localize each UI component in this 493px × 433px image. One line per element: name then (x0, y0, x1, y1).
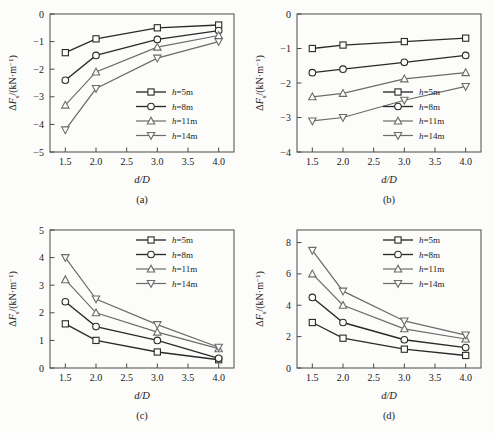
circle-marker (309, 294, 316, 301)
square-marker (309, 319, 315, 325)
x-tick-label: 2.0 (90, 156, 103, 167)
square-marker (148, 89, 154, 95)
panel-label: (b) (383, 194, 396, 206)
chart-svg-a: 1.52.02.53.03.54.0−5−4−3−2−10d/D(a)ΔFs/(… (0, 0, 246, 216)
y-tick-label: 6 (286, 268, 291, 279)
circle-marker (395, 251, 402, 258)
x-tick-label: 1.5 (59, 156, 72, 167)
y-tick-label: 4 (39, 252, 44, 263)
legend-label: h=11m (419, 264, 444, 274)
legend-label: h=8m (419, 102, 440, 112)
y-axis-label: ΔFs/(kN·m−1) (254, 55, 268, 111)
y-tick-label: 0 (39, 9, 44, 20)
x-tick-label: 3.0 (151, 372, 164, 383)
x-tick-label: 4.0 (212, 156, 225, 167)
legend: h=5mh=8mh=11mh=14m (383, 235, 445, 289)
square-marker (340, 335, 346, 341)
y-tick-label: −3 (33, 91, 44, 102)
series-line (65, 302, 218, 359)
triangle-down-marker (92, 296, 99, 303)
x-axis-label: d/D (381, 390, 397, 401)
x-tick-label: 4.0 (459, 372, 472, 383)
triangle-down-marker (462, 332, 469, 339)
y-tick-label: −4 (280, 147, 291, 158)
x-tick-label: 2.0 (90, 372, 103, 383)
legend: h=5mh=8mh=11mh=14m (383, 87, 445, 140)
triangle-down-marker (62, 127, 69, 134)
plot-frame (297, 230, 481, 368)
series-line (65, 31, 218, 81)
x-tick-label: 4.0 (212, 372, 225, 383)
x-tick-label: 1.5 (306, 156, 319, 167)
chart-panel-d: 1.52.02.53.03.54.002468d/D(d)ΔFs/(kN·m−1… (247, 216, 493, 432)
x-tick-label: 3.5 (182, 156, 195, 167)
triangle-down-marker (339, 288, 346, 295)
circle-marker (309, 69, 316, 76)
y-tick-label: −2 (280, 78, 291, 89)
x-tick-label: 2.5 (367, 372, 380, 383)
circle-marker (462, 344, 469, 351)
legend-label: h=8m (172, 102, 193, 112)
y-tick-label: 4 (286, 300, 291, 311)
circle-marker (93, 52, 100, 59)
panel-label: (c) (136, 410, 148, 422)
y-axis-label: ΔFs/(kN·m−1) (7, 271, 21, 327)
circle-marker (401, 59, 408, 66)
y-tick-label: 3 (39, 280, 44, 291)
circle-marker (148, 103, 155, 110)
y-axis-label: ΔFs/(kN·m−1) (254, 271, 268, 327)
circle-marker (462, 52, 469, 59)
circle-marker (62, 77, 69, 84)
square-marker (62, 50, 68, 56)
legend-label: h=14m (419, 279, 445, 289)
chart-panel-b: 1.52.02.53.03.54.0−4−3−2−10d/D(b)ΔFs/(kN… (247, 0, 493, 216)
square-marker (395, 89, 401, 95)
x-tick-label: 2.5 (120, 372, 133, 383)
series-line (312, 55, 465, 72)
chart-svg-d: 1.52.02.53.03.54.002468d/D(d)ΔFs/(kN·m−1… (247, 216, 493, 432)
chart-svg-c: 1.52.02.53.03.54.0012345d/D(c)ΔFs/(kN·m−… (0, 216, 246, 432)
legend-label: h=11m (172, 116, 197, 126)
y-tick-label: 2 (286, 331, 291, 342)
x-tick-label: 3.0 (398, 156, 411, 167)
y-tick-label: −3 (280, 112, 291, 123)
square-marker (401, 39, 407, 45)
circle-marker (154, 36, 161, 43)
y-axis-label: ΔFs/(kN·m−1) (7, 55, 21, 111)
square-marker (401, 346, 407, 352)
x-axis-label: d/D (134, 390, 150, 401)
circle-marker (215, 355, 222, 362)
triangle-up-marker (62, 276, 69, 283)
x-tick-label: 3.0 (151, 156, 164, 167)
series-line (65, 324, 218, 360)
plot-frame (50, 14, 234, 152)
x-tick-label: 3.5 (429, 156, 442, 167)
circle-marker (340, 319, 347, 326)
legend-label: h=14m (419, 131, 445, 141)
circle-marker (62, 298, 69, 305)
y-tick-label: 8 (286, 237, 291, 248)
x-axis-label: d/D (381, 174, 397, 185)
legend-label: h=11m (419, 116, 444, 126)
x-tick-label: 3.5 (182, 372, 195, 383)
x-tick-label: 1.5 (59, 372, 72, 383)
y-tick-label: 0 (286, 363, 291, 374)
y-tick-label: 0 (286, 9, 291, 20)
y-tick-label: −4 (33, 119, 44, 130)
legend: h=5mh=8mh=11mh=14m (136, 87, 198, 140)
panel-label: (a) (136, 194, 148, 206)
square-marker (340, 42, 346, 48)
x-tick-label: 2.0 (337, 156, 350, 167)
series-line (65, 36, 218, 106)
square-marker (148, 237, 154, 243)
plot-frame (50, 230, 234, 368)
square-marker (154, 25, 160, 31)
x-tick-label: 2.5 (120, 156, 133, 167)
legend-label: h=14m (172, 131, 198, 141)
square-marker (93, 36, 99, 42)
series-line (312, 73, 465, 97)
triangle-up-marker (92, 68, 99, 75)
panel-label: (d) (383, 410, 396, 422)
y-tick-label: 5 (39, 225, 44, 236)
x-tick-label: 3.0 (398, 372, 411, 383)
